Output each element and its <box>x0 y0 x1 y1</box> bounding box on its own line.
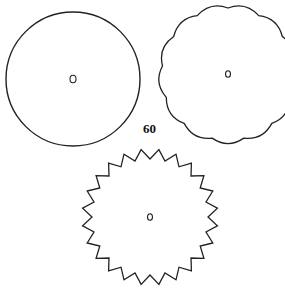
circle-outline <box>6 12 140 146</box>
figure-number-label: 60 <box>143 121 156 137</box>
center-hole-icon <box>70 75 76 83</box>
gear-circle-shape <box>83 150 218 285</box>
center-hole-icon <box>148 214 153 221</box>
center-hole-icon <box>226 71 231 78</box>
plain-circle-shape <box>6 12 140 146</box>
scalloped-circle-shape <box>159 6 285 144</box>
scalloped-outline <box>159 6 285 144</box>
gear-outline <box>83 150 218 285</box>
diagram-canvas <box>0 0 285 294</box>
